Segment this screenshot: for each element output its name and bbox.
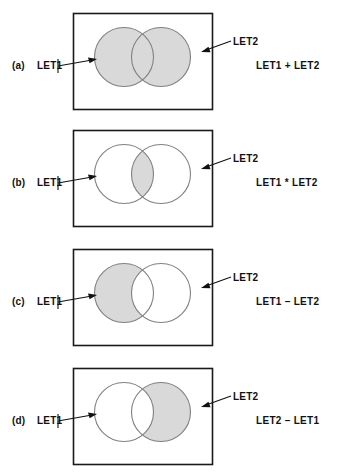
panel-d-venn-svg [0, 355, 348, 471]
venn-panel-b: (b) LET1 LET2 LET1 * LET2 [0, 117, 348, 233]
panel-b-venn-svg [0, 117, 348, 233]
venn-diagram-figure: (a) LET1 LET2 LET1 + LET2 [0, 0, 348, 476]
venn-panel-a: (a) LET1 LET2 LET1 + LET2 [0, 0, 348, 116]
panel-c-venn-svg [0, 236, 348, 352]
venn-panel-d: (d) LET1 LET2 LET2 – LET1 [0, 355, 348, 471]
venn-panel-c: (c) LET1 LET2 LET1 – LET2 [0, 236, 348, 352]
panel-a-venn-svg [0, 0, 348, 116]
